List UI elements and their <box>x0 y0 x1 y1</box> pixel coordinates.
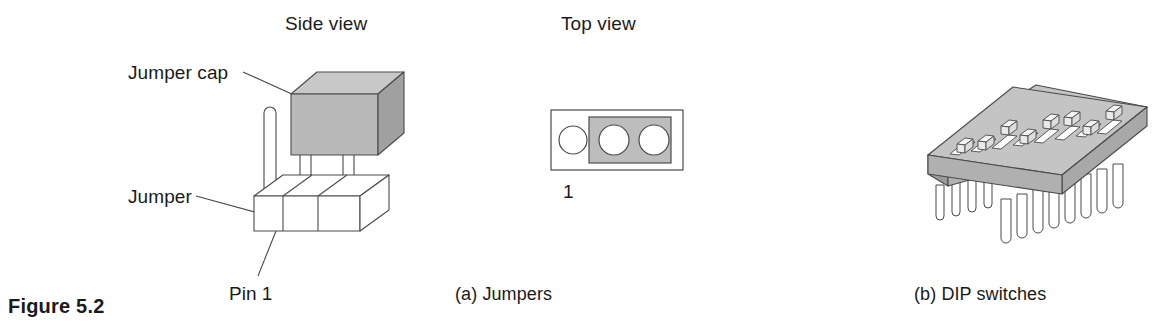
figure-number: Figure 5.2 <box>8 296 104 316</box>
jumper-base-block <box>254 175 389 231</box>
figure-container: Side view Top view Jumper cap Jumper Pin… <box>0 0 1157 331</box>
dip-switch-drawing <box>928 85 1147 243</box>
side-view-heading: Side view <box>285 14 367 33</box>
topview-hole-3 <box>639 125 669 155</box>
leader-line-pin1 <box>258 231 276 276</box>
panel-a-caption: (a) Jumpers <box>455 285 552 303</box>
cap-front-face <box>291 94 378 155</box>
figure-artwork <box>0 0 1157 331</box>
panel-b-caption: (b) DIP switches <box>914 285 1046 303</box>
base-front-face <box>254 196 360 231</box>
topview-hole-1 <box>559 126 587 154</box>
top-view-heading: Top view <box>561 14 636 33</box>
top-view-drawing <box>551 110 683 170</box>
topview-index-label: 1 <box>563 182 574 201</box>
leader-line-jumper <box>196 196 262 214</box>
side-view-drawing <box>196 72 404 276</box>
callout-jumper: Jumper <box>128 187 192 206</box>
jumper-cap-block <box>291 72 404 155</box>
callout-pin-1: Pin 1 <box>229 284 272 303</box>
topview-hole-2 <box>599 125 629 155</box>
callout-jumper-cap: Jumper cap <box>128 63 228 82</box>
